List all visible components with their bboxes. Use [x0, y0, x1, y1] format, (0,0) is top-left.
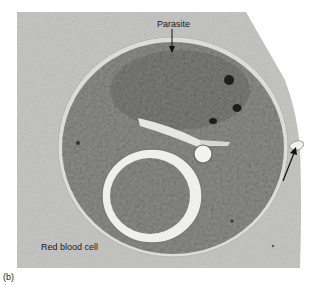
parasite-label: Parasite: [157, 19, 190, 29]
dark-granule: [209, 118, 217, 124]
red-blood-cell-label: Red blood cell: [41, 242, 98, 252]
dark-granule: [224, 75, 234, 85]
panel-label: (b): [3, 272, 14, 282]
vesicle: [194, 145, 212, 163]
vacuole-content: [110, 158, 190, 234]
dark-granule: [233, 104, 242, 112]
micrograph-figure: Parasite Red blood cell (b): [0, 0, 324, 285]
